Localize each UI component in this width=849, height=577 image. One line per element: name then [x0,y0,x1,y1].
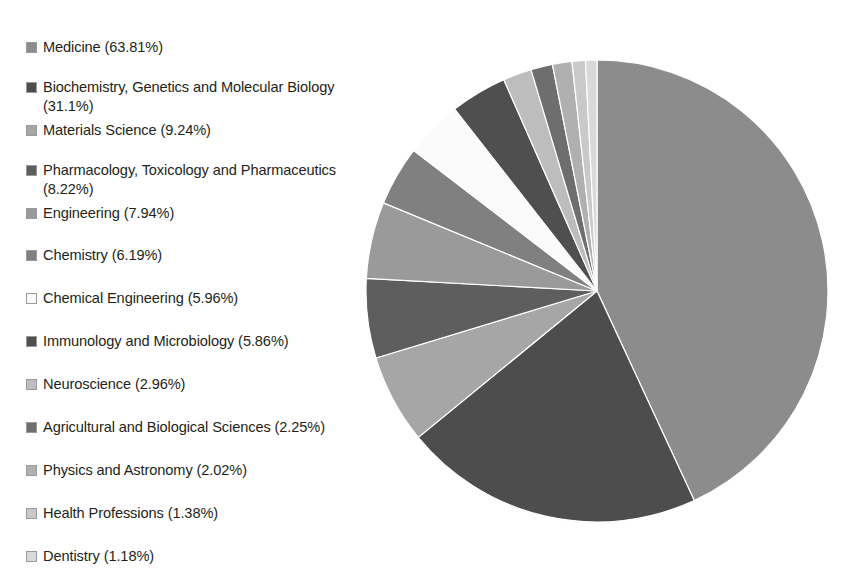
legend-item[interactable]: Health Professions (1.38%) [26,504,218,523]
legend-item[interactable]: Engineering (7.94%) [26,204,174,223]
legend-swatch-icon [26,465,37,476]
legend-item-label: Neuroscience (2.96%) [43,375,185,394]
legend-item[interactable]: Neuroscience (2.96%) [26,375,185,394]
legend-swatch-icon [26,82,37,93]
legend-item-label: Biochemistry, Genetics and Molecular Bio… [43,78,334,116]
legend-swatch-icon [26,551,37,562]
legend-item-label: Engineering (7.94%) [43,204,174,223]
legend-item[interactable]: Biochemistry, Genetics and Molecular Bio… [26,78,334,116]
legend-item-label: Dentistry (1.18%) [43,547,154,566]
legend-item-label: Materials Science (9.24%) [43,121,211,140]
legend-swatch-icon [26,508,37,519]
legend-swatch-icon [26,42,37,53]
legend-item[interactable]: Immunology and Microbiology (5.86%) [26,332,289,351]
legend-swatch-icon [26,165,37,176]
legend-swatch-icon [26,379,37,390]
legend-item[interactable]: Agricultural and Biological Sciences (2.… [26,418,325,437]
legend-item-label: Medicine (63.81%) [43,38,163,57]
legend-item[interactable]: Dentistry (1.18%) [26,547,154,566]
pie-slice-group [366,60,828,522]
legend-item-label: Agricultural and Biological Sciences (2.… [43,418,325,437]
legend-swatch-icon [26,208,37,219]
pie-chart-plot-area [366,56,830,526]
legend-swatch-icon [26,250,37,261]
legend-item[interactable]: Chemistry (6.19%) [26,246,162,265]
legend-item[interactable]: Medicine (63.81%) [26,38,163,57]
legend-swatch-icon [26,422,37,433]
legend-swatch-icon [26,125,37,136]
legend-item-label: Immunology and Microbiology (5.86%) [43,332,289,351]
legend-item-label: Pharmacology, Toxicology and Pharmaceuti… [43,161,336,199]
legend-item-label: Chemical Engineering (5.96%) [43,289,238,308]
legend-item[interactable]: Chemical Engineering (5.96%) [26,289,238,308]
legend-item[interactable]: Pharmacology, Toxicology and Pharmaceuti… [26,161,336,199]
legend-item-label: Chemistry (6.19%) [43,246,162,265]
legend-item[interactable]: Physics and Astronomy (2.02%) [26,461,247,480]
pie-chart-svg [366,56,830,526]
legend-swatch-icon [26,336,37,347]
pie-chart-figure: Medicine (63.81%)Biochemistry, Genetics … [0,0,849,577]
legend-item-label: Health Professions (1.38%) [43,504,218,523]
legend-item[interactable]: Materials Science (9.24%) [26,121,211,140]
legend-swatch-icon [26,293,37,304]
legend-item-label: Physics and Astronomy (2.02%) [43,461,247,480]
